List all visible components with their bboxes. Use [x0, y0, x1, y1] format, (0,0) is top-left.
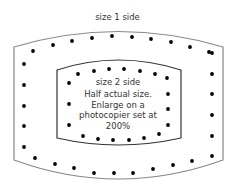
- stitch-dot: [157, 132, 161, 136]
- stitch-dot: [53, 162, 57, 166]
- stitch-dot: [22, 62, 26, 66]
- instruction-line: photocopier set at: [70, 110, 166, 121]
- stitch-dot: [31, 49, 35, 53]
- stitch-dot: [122, 67, 126, 71]
- stitch-dot: [153, 72, 157, 76]
- stitch-dot: [22, 124, 26, 128]
- stitch-dot: [190, 159, 194, 163]
- stitch-dot: [131, 171, 135, 175]
- enlarge-instructions: Half actual size. Enlarge on a photocopi…: [70, 89, 166, 132]
- stitch-dot: [138, 69, 142, 73]
- stitch-dot: [127, 138, 131, 142]
- stitch-dot: [22, 145, 26, 149]
- stitch-dot: [72, 166, 76, 170]
- instruction-line: 200%: [70, 121, 166, 132]
- stitch-dot: [81, 134, 85, 138]
- stitch-dot: [210, 113, 214, 117]
- stitch-dot: [166, 107, 170, 111]
- stitch-dot: [130, 35, 134, 39]
- size-1-side-label: size 1 side: [0, 12, 235, 23]
- stitch-dot: [107, 67, 111, 71]
- stitch-dot: [142, 136, 146, 140]
- stitch-dot: [188, 45, 192, 49]
- stitch-dot: [210, 92, 214, 96]
- stitch-dot: [90, 36, 94, 40]
- stitch-dot: [210, 72, 214, 76]
- stitch-dot: [166, 123, 170, 127]
- stitch-dot: [151, 167, 155, 171]
- stitch-dot: [112, 171, 116, 175]
- stitch-dot: [169, 40, 173, 44]
- stitch-dot: [92, 69, 96, 73]
- stitch-dot: [110, 34, 114, 38]
- stitch-dot: [96, 137, 100, 141]
- stitch-dot: [210, 134, 214, 138]
- instruction-line: Half actual size.: [70, 89, 166, 100]
- size-2-side-label: size 2 side: [70, 77, 166, 88]
- stitch-dot: [210, 154, 214, 158]
- stitch-dot: [171, 163, 175, 167]
- stitch-dot: [166, 92, 170, 96]
- stitch-dot: [210, 51, 214, 55]
- stitch-dot: [111, 138, 115, 142]
- instruction-line: Enlarge on a: [70, 100, 166, 111]
- stitch-dot: [76, 72, 80, 76]
- stitch-dot: [92, 171, 96, 175]
- stitch-dot: [51, 43, 55, 47]
- stitch-dot: [149, 37, 153, 41]
- stitch-dot: [33, 156, 37, 160]
- stitch-dot: [22, 83, 26, 87]
- stitch-dot: [70, 39, 74, 43]
- stitch-dot: [22, 104, 26, 108]
